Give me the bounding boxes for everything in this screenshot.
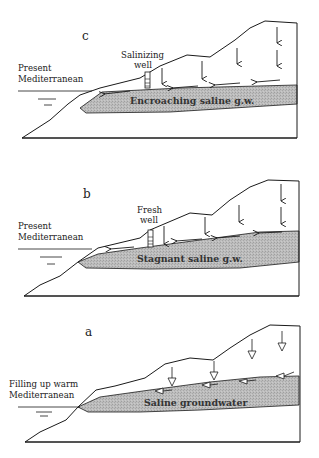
sea-label-line2: Mediterranean xyxy=(18,232,84,242)
groundwater-label: Stagnant saline g.w. xyxy=(137,253,243,264)
sea-label-line2: Mediterranean xyxy=(9,390,75,400)
recharge-arrows xyxy=(162,27,277,84)
sea-label-line1: Present xyxy=(18,63,52,73)
panel-letter-b: b xyxy=(83,187,91,201)
panel-a: a Saline groundwater Filling up warm Med… xyxy=(9,325,300,442)
well-icon xyxy=(148,230,153,247)
well-icon xyxy=(145,72,150,88)
panel-c: c Encroaching saline g.w. Present Medite… xyxy=(18,21,297,138)
well-label-line1: Salinizing xyxy=(121,50,165,60)
panel-letter-c: c xyxy=(82,29,89,43)
sea-label-line1: Filling up warm xyxy=(9,379,78,389)
sea-label-line2: Mediterranean xyxy=(18,74,84,84)
groundwater-label: Encroaching saline g.w. xyxy=(130,95,254,106)
groundwater-diagram: c Encroaching saline g.w. Present Medite… xyxy=(0,0,319,458)
well-label-line2: well xyxy=(134,60,152,70)
panel-letter-a: a xyxy=(85,325,92,339)
panel-b: b Stagnant saline g.w. Present Mediterra… xyxy=(18,180,299,296)
well-label-line1: Fresh xyxy=(137,205,163,215)
groundwater-label: Saline groundwater xyxy=(144,397,248,408)
sea-label-line1: Present xyxy=(18,221,52,231)
well-label-line2: well xyxy=(140,215,158,225)
